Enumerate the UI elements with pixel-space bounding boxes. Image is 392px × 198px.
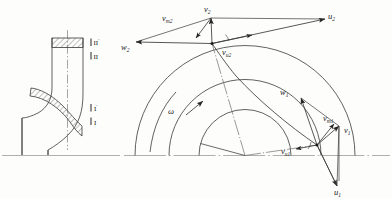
duct-outer-wall xyxy=(48,38,83,155)
vector-w1 xyxy=(301,98,317,145)
figure-canvas: II' II I' I ω u2 v2 w2 vm2 vu2 u1 v1 w1 … xyxy=(0,0,392,198)
label-u2: u2 xyxy=(328,11,335,22)
label-v2: v2 xyxy=(204,4,211,15)
label-vm2: vm2 xyxy=(162,13,173,24)
outlet-closing-line xyxy=(211,18,325,19)
label-section-I: I xyxy=(94,119,97,127)
radial-line-outlet xyxy=(212,44,245,156)
impeller-plan-view xyxy=(124,44,390,156)
meridional-section xyxy=(2,30,120,156)
inlet-circle-arc xyxy=(169,80,321,156)
label-vm1: vm1 xyxy=(323,113,334,124)
label-section-I-prime: I' xyxy=(94,104,97,113)
inlet-velocity-triangle xyxy=(296,98,339,186)
label-v1: v1 xyxy=(344,125,351,136)
hub-radial-spoke xyxy=(201,144,246,156)
label-u1: u1 xyxy=(334,187,341,198)
vector-v1 xyxy=(317,126,339,145)
vector-v2 xyxy=(211,18,212,44)
vector-vm1 xyxy=(317,124,334,145)
inlet-vector-labels: u1 v1 w1 vm1 vu1 xyxy=(280,87,351,198)
inlet-u1-base-line xyxy=(317,145,337,186)
inlet-angle-arc xyxy=(308,142,311,149)
label-vu1: vu1 xyxy=(281,146,291,157)
diagram-svg: II' II I' I ω u2 v2 w2 vm2 vu2 u1 v1 w1 … xyxy=(0,0,392,198)
label-section-II: II xyxy=(94,53,99,61)
inlet-blade-section xyxy=(30,88,82,136)
vector-w2 xyxy=(136,42,212,44)
label-w2: w2 xyxy=(121,42,130,53)
label-section-II-prime: II' xyxy=(94,38,100,47)
outlet-blade-section xyxy=(52,38,83,48)
hub-circle-arc xyxy=(199,110,291,156)
label-w1: w1 xyxy=(280,87,289,98)
meridional-section-labels: II' II I' I xyxy=(94,38,100,127)
outlet-angle-arc xyxy=(226,35,230,41)
vector-vm2 xyxy=(196,18,211,38)
label-vu2: vu2 xyxy=(222,47,232,58)
blade-curve xyxy=(212,44,317,146)
vector-vu1 xyxy=(296,145,317,149)
outlet-vector-labels: u2 v2 w2 vm2 vu2 xyxy=(121,4,335,58)
inlet-point xyxy=(316,144,319,147)
vector-vu2 xyxy=(212,35,252,44)
outlet-w2-v2-line xyxy=(136,18,211,42)
label-omega: ω xyxy=(168,106,174,116)
outlet-point xyxy=(211,42,214,45)
